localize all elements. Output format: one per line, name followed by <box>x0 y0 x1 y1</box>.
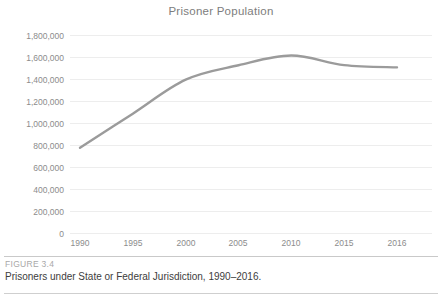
figure-number-label: FIGURE 3.4 <box>5 259 54 269</box>
series-line-prisoner-population <box>80 56 397 148</box>
caption-divider-bottom <box>4 293 438 294</box>
figure-container: Prisoner Population 1,800,000 1,600,000 … <box>0 0 442 296</box>
caption-divider-top <box>4 256 438 257</box>
series-svg <box>0 0 442 256</box>
chart-area: Prisoner Population 1,800,000 1,600,000 … <box>0 0 442 256</box>
figure-caption-text: Prisoners under State or Federal Jurisdi… <box>5 271 435 284</box>
figure-caption-block: FIGURE 3.4 Prisoners under State or Fede… <box>0 256 442 296</box>
